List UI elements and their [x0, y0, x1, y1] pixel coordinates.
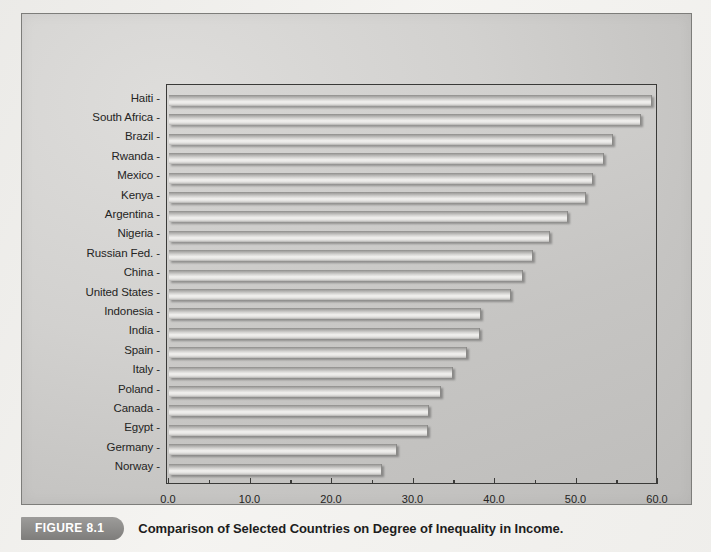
- bar-mexico: [169, 173, 593, 184]
- figure-caption: FIGURE 8.1 Comparison of Selected Countr…: [21, 516, 563, 540]
- bar-row: [167, 188, 656, 207]
- bar-norway: [169, 464, 382, 475]
- bar-row: [167, 363, 656, 382]
- plot-area: [166, 84, 657, 484]
- x-axis-tick-minor: [209, 480, 210, 484]
- page-background: Haiti -South Africa -Brazil -Rwanda -Mex…: [0, 0, 711, 552]
- y-axis-label-brazil: Brazil -: [125, 130, 160, 142]
- bar-canada: [169, 405, 429, 416]
- bar-united-states: [169, 289, 511, 300]
- bar-italy: [169, 367, 453, 378]
- bar-row: [167, 460, 656, 479]
- figure-number-badge: FIGURE 8.1: [21, 517, 124, 540]
- bar-brazil: [169, 134, 613, 145]
- bar-row: [167, 440, 656, 459]
- bar-rwanda: [169, 153, 604, 164]
- y-axis-label-germany: Germany -: [107, 441, 160, 453]
- bar-spain: [169, 347, 467, 358]
- y-axis-label-canada: Canada -: [113, 402, 160, 414]
- bar-row: [167, 304, 656, 323]
- x-axis-tick-major: [168, 478, 169, 484]
- y-axis-label-poland: Poland -: [118, 383, 160, 395]
- bar-row: [167, 382, 656, 401]
- y-axis-label-nigeria: Nigeria -: [117, 227, 160, 239]
- y-axis-label-haiti: Haiti -: [131, 92, 160, 104]
- bar-row: [167, 149, 656, 168]
- y-axis-label-kenya: Kenya -: [121, 189, 160, 201]
- y-axis-label-india: India -: [129, 324, 160, 336]
- y-axis-label-italy: Italy -: [133, 363, 160, 375]
- y-axis-label-mexico: Mexico -: [117, 169, 160, 181]
- bar-row: [167, 324, 656, 343]
- y-axis-labels: Haiti -South Africa -Brazil -Rwanda -Mex…: [22, 14, 166, 506]
- x-axis-tick-minor: [616, 480, 617, 484]
- bar-row: [167, 343, 656, 362]
- x-axis-tick-minor: [372, 480, 373, 484]
- bar-row: [167, 421, 656, 440]
- x-axis-label-50-0: 50.0: [565, 493, 586, 505]
- bar-row: [167, 246, 656, 265]
- bar-india: [169, 328, 480, 339]
- bar-indonesia: [169, 308, 481, 319]
- x-axis-label-60-0: 60.0: [646, 493, 667, 505]
- bar-poland: [169, 386, 441, 397]
- x-axis-tick-major: [413, 478, 414, 484]
- bar-row: [167, 285, 656, 304]
- bar-row: [167, 91, 656, 110]
- bar-row: [167, 110, 656, 129]
- x-axis-label-0-0: 0.0: [160, 493, 175, 505]
- y-axis-label-indonesia: Indonesia -: [104, 305, 160, 317]
- bar-haiti: [169, 95, 652, 106]
- bar-south-africa: [169, 114, 641, 125]
- x-axis-label-20-0: 20.0: [320, 493, 341, 505]
- figure-frame: Haiti -South Africa -Brazil -Rwanda -Mex…: [21, 13, 692, 505]
- bar-china: [169, 270, 523, 281]
- bar-argentina: [169, 211, 568, 222]
- x-axis-tick-major: [576, 478, 577, 484]
- bar-germany: [169, 444, 397, 455]
- bar-row: [167, 130, 656, 149]
- x-axis-label-30-0: 30.0: [402, 493, 423, 505]
- x-axis-tick-major: [657, 478, 658, 484]
- x-axis-tick-major: [331, 478, 332, 484]
- x-axis-label-10-0: 10.0: [239, 493, 260, 505]
- y-axis-label-south-africa: South Africa -: [92, 111, 160, 123]
- x-axis-tick-major: [250, 478, 251, 484]
- bar-row: [167, 169, 656, 188]
- bar-row: [167, 401, 656, 420]
- bar-nigeria: [169, 231, 550, 242]
- bar-egypt: [169, 425, 428, 436]
- bar-row: [167, 266, 656, 285]
- figure-caption-text: Comparison of Selected Countries on Degr…: [138, 521, 563, 536]
- y-axis-label-argentina: Argentina -: [105, 208, 160, 220]
- x-axis-label-40-0: 40.0: [483, 493, 504, 505]
- bar-russian-fed: [169, 250, 533, 261]
- y-axis-label-russian-fed: Russian Fed. -: [87, 247, 160, 259]
- y-axis-label-united-states: United States -: [85, 286, 160, 298]
- y-axis-label-rwanda: Rwanda -: [112, 150, 160, 162]
- y-axis-label-norway: Norway -: [115, 460, 160, 472]
- bar-row: [167, 207, 656, 226]
- bar-kenya: [169, 192, 586, 203]
- y-axis-label-spain: Spain -: [124, 344, 160, 356]
- x-axis-tick-minor: [535, 480, 536, 484]
- y-axis-label-china: China -: [124, 266, 160, 278]
- x-axis-tick-minor: [290, 480, 291, 484]
- x-axis-tick-minor: [453, 480, 454, 484]
- x-axis-tick-major: [494, 478, 495, 484]
- bar-row: [167, 227, 656, 246]
- y-axis-label-egypt: Egypt -: [124, 421, 160, 433]
